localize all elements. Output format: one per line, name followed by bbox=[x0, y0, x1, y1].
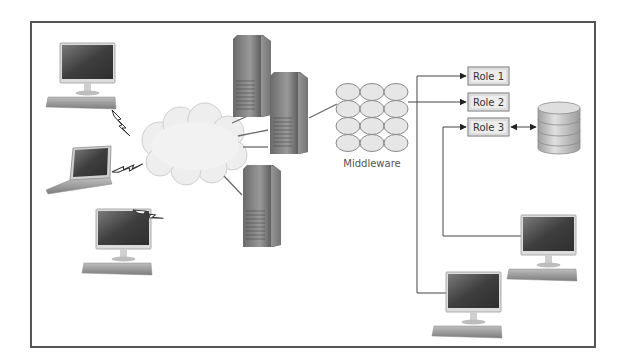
middleware-label: Middleware bbox=[343, 158, 400, 169]
database-icon bbox=[538, 102, 580, 154]
role-1-box: Role 1 bbox=[468, 67, 509, 85]
laptop-client-icon bbox=[46, 146, 112, 194]
desktop-client-3-icon bbox=[82, 209, 152, 275]
role-3-label: Role 3 bbox=[473, 122, 504, 133]
middleware-grid-icon bbox=[336, 84, 408, 152]
role-3-box: Role 3 bbox=[468, 118, 509, 136]
role-2-box: Role 2 bbox=[468, 93, 509, 111]
server-2-icon bbox=[270, 72, 308, 154]
server-middleware-link bbox=[309, 104, 337, 118]
desktop-client-5-icon bbox=[432, 272, 502, 338]
network-cloud-icon bbox=[142, 103, 247, 185]
server-1-icon bbox=[233, 35, 271, 117]
role-2-label: Role 2 bbox=[473, 97, 504, 108]
role-1-label: Role 1 bbox=[473, 71, 504, 82]
network-diagram: Middleware Role 1 Role 2 Role 3 bbox=[0, 0, 625, 364]
server-3-icon bbox=[243, 165, 281, 247]
desktop-client-1-icon bbox=[46, 43, 116, 109]
desktop-client-4-icon bbox=[507, 215, 577, 281]
